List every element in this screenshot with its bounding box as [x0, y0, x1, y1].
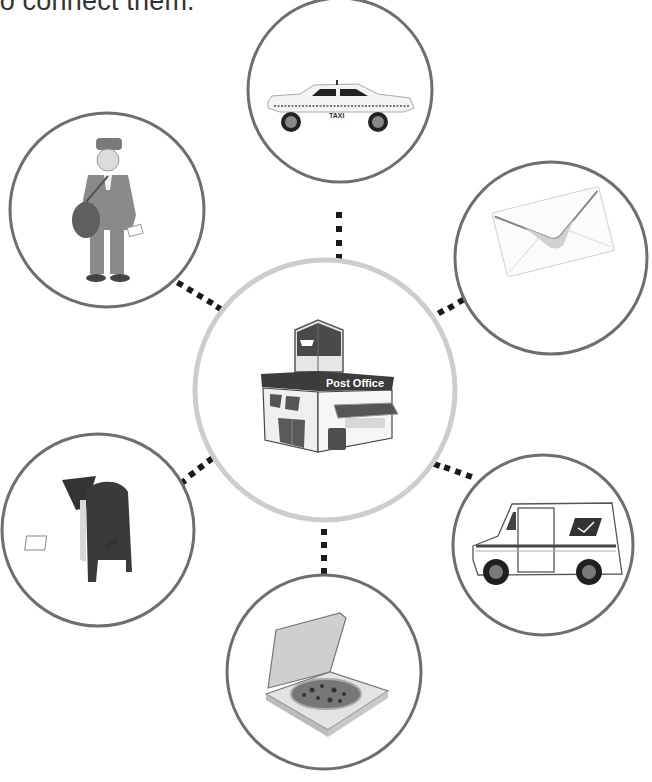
center-node-post-office[interactable]: Post Office: [195, 260, 455, 520]
connector-mail-truck: [433, 461, 473, 480]
node-mail-carrier[interactable]: [10, 113, 204, 307]
post-office-label: Post Office: [326, 377, 384, 389]
taxi-label: TAXI: [329, 112, 344, 119]
connection-diagram: Post Office TAXI: [0, 0, 652, 782]
node-mailbox[interactable]: [2, 434, 194, 626]
node-taxi[interactable]: TAXI: [248, 0, 432, 182]
connector-mailbox: [179, 456, 214, 486]
connector-mail-carrier: [176, 280, 223, 312]
connector-taxi: [336, 212, 342, 260]
node-pizza-box[interactable]: [227, 575, 421, 769]
node-envelope[interactable]: [455, 162, 647, 354]
connector-pizza-box: [321, 529, 327, 574]
node-mail-truck[interactable]: [453, 455, 633, 635]
